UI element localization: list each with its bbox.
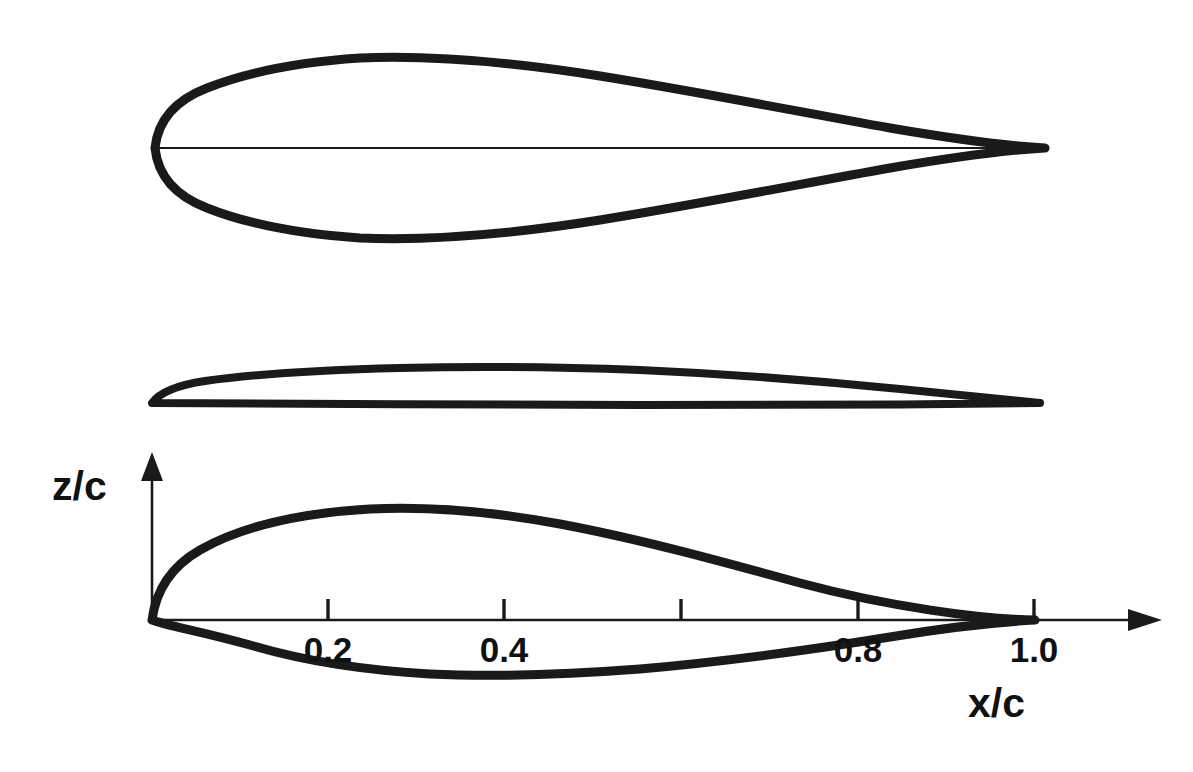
y-axis-label: z/c xyxy=(52,466,107,507)
profile-3-outline xyxy=(152,508,1035,675)
x-tick-label-0.8: 0.8 xyxy=(834,632,883,667)
profile-2-outline xyxy=(152,367,1040,405)
x-tick-label-0.4: 0.4 xyxy=(480,632,529,667)
airfoil-figure: z/c x/c 0.2 0.4 0.8 1.0 xyxy=(0,0,1193,772)
profile-1-group xyxy=(155,57,1045,238)
x-tick-label-0.2: 0.2 xyxy=(304,632,353,667)
y-axis-arrow-icon xyxy=(141,452,163,481)
x-axis-label: x/c xyxy=(968,683,1025,724)
profile-2-group xyxy=(152,367,1040,405)
x-tick-label-1.0: 1.0 xyxy=(1010,632,1059,667)
x-axis-arrow-icon xyxy=(1128,609,1162,631)
